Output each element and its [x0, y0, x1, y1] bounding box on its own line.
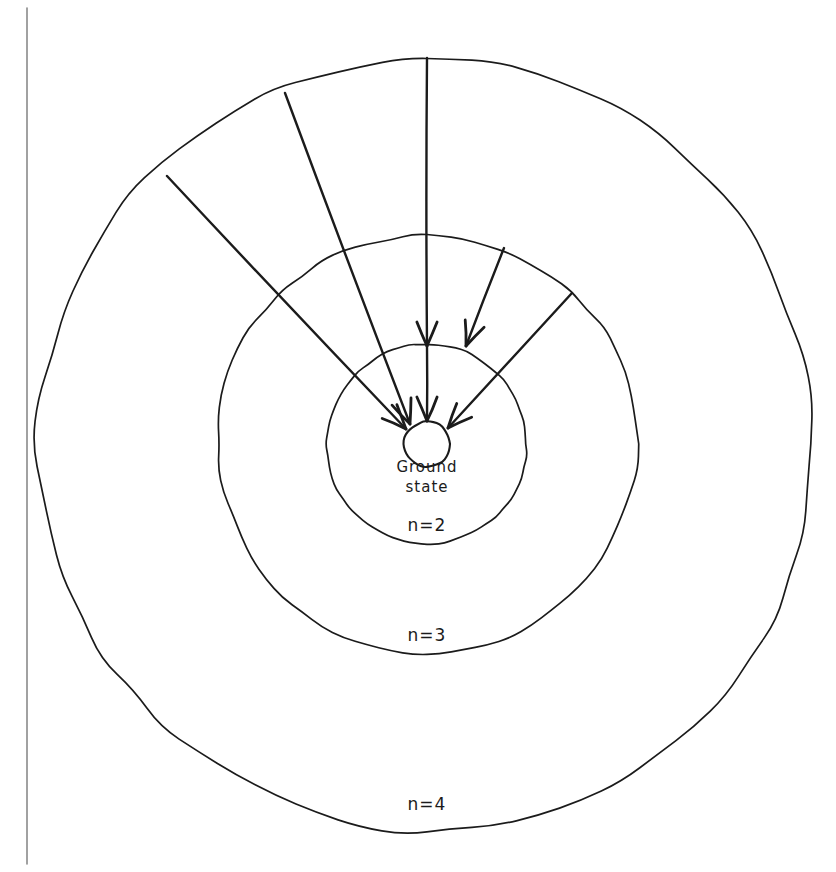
shell-label-n2: n=2	[408, 515, 447, 535]
bohr-model-figure: Groundstaten=2n=3n=4	[0, 0, 836, 872]
shell-label-n4: n=4	[408, 794, 447, 814]
shell-label-ground-line2: state	[406, 478, 449, 496]
arrowhead-barb	[465, 320, 466, 346]
paper-background	[0, 0, 836, 872]
arrow-shaft	[426, 58, 427, 346]
arrowhead-barb	[410, 398, 411, 424]
shell-label-ground-line1: Ground	[396, 458, 457, 476]
shell-label-n3: n=3	[408, 625, 447, 645]
diagram-canvas: Groundstaten=2n=3n=4	[0, 0, 836, 872]
